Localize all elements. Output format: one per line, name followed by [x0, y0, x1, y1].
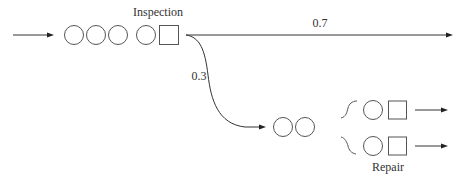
inspection-label: Inspection — [133, 5, 183, 19]
server-circle-icon — [364, 101, 383, 120]
queue-circle-icon — [296, 118, 315, 137]
server-square-icon — [389, 101, 407, 119]
queueing-network-diagram: Inspection 0.7 0.3 Repair — [0, 0, 464, 182]
server-square-icon — [160, 26, 179, 45]
server-square-icon — [389, 137, 407, 155]
arrowhead-icon — [446, 33, 453, 38]
repair-label: Repair — [372, 160, 404, 174]
repair-queue — [274, 118, 315, 137]
queue-circle-icon — [274, 118, 293, 137]
inspection-queue — [65, 26, 128, 45]
server-circle-icon — [364, 137, 383, 156]
arrival-arrow — [13, 33, 54, 38]
split-bracket-icon — [341, 101, 357, 118]
pass-branch: 0.7 — [186, 16, 453, 38]
pass-probability-label: 0.7 — [313, 16, 328, 30]
rework-branch: 0.3 — [186, 35, 266, 130]
arrowhead-icon — [441, 108, 448, 113]
server-circle-icon — [137, 26, 156, 45]
queue-circle-icon — [109, 26, 128, 45]
repair-station-lower: Repair — [341, 137, 448, 175]
queue-circle-icon — [87, 26, 106, 45]
arrowhead-icon — [259, 125, 266, 130]
repair-station-upper — [341, 101, 448, 120]
queue-circle-icon — [65, 26, 84, 45]
inspection-station: Inspection — [133, 5, 183, 45]
arrowhead-icon — [47, 33, 54, 38]
rework-probability-label: 0.3 — [192, 69, 207, 83]
arrowhead-icon — [441, 144, 448, 149]
split-bracket-icon — [341, 137, 356, 154]
